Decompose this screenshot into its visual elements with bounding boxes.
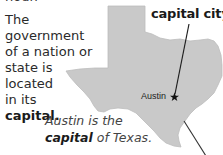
definition-line: located xyxy=(5,76,109,92)
definition-text: The government of a nation or state is l… xyxy=(5,12,109,124)
definition-line: of a nation or xyxy=(5,44,109,60)
caption-rest: of Texas. xyxy=(93,130,152,145)
definition-line: in its xyxy=(5,92,109,108)
caption-keyword: capital xyxy=(45,130,93,145)
definition-line: The government xyxy=(5,12,109,44)
austin-label: Austin xyxy=(141,91,166,101)
definition-line: state is xyxy=(5,60,109,76)
example-caption: Austin is the capital of Texas. xyxy=(45,112,152,146)
capital-city-label: capital city xyxy=(151,6,223,21)
coast-pointer-line xyxy=(184,121,206,155)
caption-line-2: capital of Texas. xyxy=(45,129,152,146)
caption-line-1: Austin is the xyxy=(45,112,152,129)
